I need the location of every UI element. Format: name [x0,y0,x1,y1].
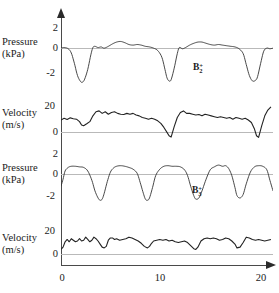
xtick-10: 10 [148,272,172,283]
panel-pressure-bottom [61,144,273,212]
annotation-b2-sub: 2 [199,68,203,73]
ytick-velocity-top-20: 20 [33,100,55,111]
trace-velocity-top [61,96,273,144]
xtick-20: 20 [249,272,273,283]
ytick-pressure-bottom-2: 2 [36,148,58,159]
ytick-pressure-top-2: 2 [36,22,58,33]
trace-velocity-bottom [61,218,273,264]
trace-pressure-top [61,16,273,90]
trace-pressure-bottom [61,144,273,212]
panel-pressure-top [61,16,273,90]
annotation-b2-plus: B+2 [193,62,203,73]
ytick-pressure-bottom-neg2: -2 [33,190,55,201]
annotation-b3-sub: 3 [198,191,202,196]
figure-container: Pressure (kPa) 2 0 -2 B+2 Velocity (m/s)… [0,0,279,293]
panel-velocity-top [61,96,273,144]
ytick-velocity-top-0: 0 [36,126,58,137]
x-axis-line [61,265,267,266]
ytick-pressure-top-neg2: -2 [33,67,55,78]
ytick-pressure-bottom-0: 0 [36,168,58,179]
xtick-0: 0 [50,272,74,283]
ytick-velocity-bottom-0: 0 [36,248,58,259]
annotation-b3-affixes: +3 [198,186,202,196]
annotation-b2-affixes: +2 [199,63,203,73]
ytick-pressure-top-0: 0 [36,42,58,53]
ytick-velocity-bottom-20: 20 [33,225,55,236]
panel-velocity-bottom [61,218,273,264]
annotation-b3-plus: B+3 [192,185,202,196]
